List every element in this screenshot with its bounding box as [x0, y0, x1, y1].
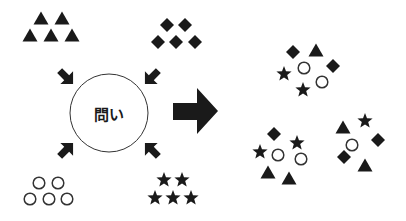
circle-icon — [298, 62, 310, 74]
big-right-arrow-icon — [173, 88, 218, 134]
mixed-group-3 — [336, 113, 386, 172]
circle-icon — [43, 193, 55, 205]
diamonds-group — [151, 18, 202, 49]
circle-icon — [61, 193, 73, 205]
circle-icon — [346, 139, 358, 151]
diamond-icon — [178, 18, 192, 32]
diamond-icon — [267, 127, 281, 141]
triangle-icon — [336, 121, 351, 134]
star-icon — [289, 135, 304, 150]
arrow-from-triangles-icon — [53, 64, 79, 90]
circle-icon — [24, 193, 36, 205]
triangle-icon — [358, 159, 373, 172]
diamond-icon — [151, 35, 165, 49]
circles-group — [24, 177, 73, 205]
mixed-group-1 — [276, 44, 340, 97]
triangle-icon — [55, 12, 70, 25]
star-icon — [295, 82, 310, 97]
circle-icon — [295, 153, 307, 165]
star-icon — [147, 190, 162, 205]
diamond-icon — [160, 18, 174, 32]
triangle-icon — [44, 29, 59, 42]
question-label: 問い — [94, 103, 124, 124]
circle-icon — [33, 177, 45, 189]
circle-icon — [272, 149, 284, 161]
triangle-icon — [282, 172, 297, 185]
diagram-canvas — [0, 0, 406, 221]
diamond-icon — [169, 35, 183, 49]
triangle-icon — [309, 44, 324, 57]
arrow-from-circles-icon — [53, 137, 79, 163]
star-icon — [183, 190, 198, 205]
diamond-icon — [188, 35, 202, 49]
diamond-icon — [286, 45, 300, 59]
diamond-icon — [371, 133, 385, 147]
star-icon — [174, 172, 189, 187]
star-icon — [165, 190, 180, 205]
circle-icon — [316, 76, 328, 88]
star-icon — [276, 66, 291, 81]
star-icon — [252, 144, 267, 159]
arrow-from-diamonds-icon — [139, 64, 165, 90]
triangle-icon — [65, 29, 80, 42]
triangle-icon — [34, 12, 49, 25]
triangle-icon — [261, 166, 276, 179]
star-icon — [156, 172, 171, 187]
stars-group — [147, 172, 198, 205]
diamond-icon — [326, 59, 340, 73]
mixed-group-2 — [252, 127, 306, 185]
output-mixed-groups — [252, 44, 385, 185]
circle-icon — [52, 177, 64, 189]
star-icon — [357, 113, 372, 128]
arrow-from-stars-icon — [139, 137, 165, 163]
triangle-icon — [23, 29, 38, 42]
triangles-group — [23, 12, 80, 42]
diamond-icon — [337, 150, 351, 164]
